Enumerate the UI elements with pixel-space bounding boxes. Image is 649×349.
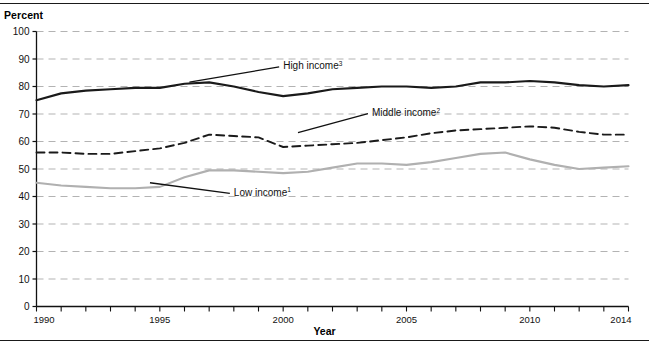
x-axis-tick-label: 1995 <box>149 314 170 325</box>
y-axis-title: Percent <box>4 9 43 21</box>
series-line-middle-income <box>37 126 629 154</box>
y-axis-tick-label: 60 <box>18 136 30 147</box>
series-label-footnote-marker: 1 <box>287 186 291 193</box>
bottom-divider-rule <box>0 340 649 341</box>
x-axis-title: Year <box>0 325 649 337</box>
x-axis-tick-label: 2000 <box>273 314 294 325</box>
series-line-low-income <box>37 153 629 189</box>
y-axis-group: 0102030405060708090100 <box>13 26 37 312</box>
line-chart-plot: 0102030405060708090100 19901995200020052… <box>0 0 649 349</box>
y-axis-tick-label: 20 <box>18 246 30 257</box>
x-axis-group: 199019952000200520102014 <box>34 307 632 325</box>
x-axis-tick-label: 2014 <box>610 314 631 325</box>
y-axis-tick-label: 10 <box>18 274 30 285</box>
series-label-middle-income: Middle income2 <box>372 107 440 119</box>
data-series-group <box>37 81 629 188</box>
series-label-high-income: High income3 <box>283 60 343 72</box>
y-axis-tick-label: 0 <box>24 301 30 312</box>
y-axis-tick-label: 40 <box>18 191 30 202</box>
x-axis-tick-label: 2005 <box>396 314 417 325</box>
series-annotation-group: High income3Middle income2Low income1 <box>150 60 440 198</box>
annotation-leader-line <box>298 114 368 133</box>
x-axis-tick-label: 2010 <box>519 314 540 325</box>
series-label-footnote-marker: 3 <box>339 60 343 67</box>
y-axis-tick-label: 90 <box>18 54 30 65</box>
y-axis-tick-label: 70 <box>18 109 30 120</box>
y-axis-tick-label: 80 <box>18 81 30 92</box>
x-axis-tick-label: 1990 <box>34 314 55 325</box>
series-line-high-income <box>37 81 629 100</box>
chart-figure: Percent Year 0102030405060708090100 1990… <box>0 0 649 349</box>
y-axis-tick-label: 50 <box>18 164 30 175</box>
series-label-low-income: Low income1 <box>234 186 291 198</box>
series-label-footnote-marker: 2 <box>436 107 440 114</box>
y-axis-tick-label: 100 <box>13 26 30 37</box>
y-axis-tick-label: 30 <box>18 219 30 230</box>
annotation-leader-line <box>189 67 279 82</box>
top-divider-rule <box>0 3 649 4</box>
annotation-leader-line <box>150 183 230 194</box>
